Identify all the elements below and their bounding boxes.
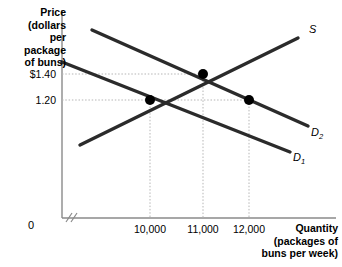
supply-demand-chart: Price (dollars per package of buns) Quan… (0, 0, 342, 267)
y-tick-label-140: $1.40 (4, 68, 56, 80)
y-tick-label-120: 1.20 (4, 94, 56, 106)
curve-label-d1-subscript: 1 (301, 157, 305, 166)
x-tick-label-10000: 10,000 (120, 223, 180, 235)
origin-label: 0 (28, 219, 34, 231)
supply-curve-s (80, 38, 298, 145)
point-quantity-demanded-old-price (244, 95, 254, 105)
x-tick-label-12000: 12,000 (219, 223, 279, 235)
point-new-equilibrium (198, 69, 208, 79)
curve-label-d1-text: D (293, 151, 301, 163)
curve-label-s: S (309, 23, 316, 35)
y-axis-title: Price (dollars per package of buns) (4, 6, 66, 69)
curve-label-d2: D2 (311, 126, 323, 141)
point-initial-equilibrium (145, 95, 155, 105)
curve-label-d1: D1 (293, 151, 305, 166)
curve-label-d2-subscript: 2 (319, 132, 323, 141)
curve-label-d2-text: D (311, 126, 319, 138)
